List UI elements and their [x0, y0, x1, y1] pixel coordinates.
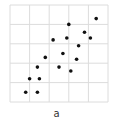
data-point: [65, 36, 69, 40]
data-point: [69, 69, 73, 73]
scatter-plot: [0, 0, 113, 108]
data-point: [24, 91, 28, 95]
data-point: [75, 58, 79, 62]
data-point: [38, 77, 42, 81]
data-point: [89, 36, 93, 40]
data-point: [28, 77, 32, 81]
data-point: [51, 38, 55, 42]
data-point: [61, 52, 65, 56]
data-point: [67, 23, 71, 27]
data-point: [36, 65, 40, 69]
data-point: [36, 91, 40, 95]
data-point: [57, 65, 61, 69]
data-point: [44, 56, 48, 60]
chart-caption: a: [0, 108, 113, 119]
data-point: [94, 17, 98, 21]
grid-lines: [10, 5, 108, 102]
data-point: [77, 44, 81, 48]
data-point: [83, 30, 87, 34]
